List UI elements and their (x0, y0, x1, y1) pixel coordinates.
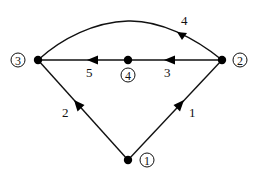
node-3-dot (34, 56, 42, 64)
svg-text:2: 2 (237, 54, 243, 68)
edge-2 (38, 60, 128, 160)
edge-3-arrowhead-icon (164, 56, 175, 65)
edge-1-label: 1 (189, 105, 196, 120)
node-2-dot (218, 56, 226, 64)
edge-5-label: 5 (86, 65, 93, 80)
graph-svg: 4 3 5 2 1 1 2 3 (0, 0, 260, 178)
node-4-label: 4 (121, 68, 135, 83)
node-3-label: 3 (11, 53, 25, 68)
edge-3-label: 3 (164, 65, 171, 80)
edge-1 (128, 60, 222, 160)
edge-4 (38, 21, 222, 60)
svg-text:1: 1 (144, 154, 150, 168)
node-2-label: 2 (233, 53, 247, 68)
node-1-dot (124, 156, 132, 164)
svg-text:3: 3 (15, 54, 21, 68)
svg-text:4: 4 (125, 69, 131, 83)
node-1-label: 1 (140, 153, 154, 168)
edge-5-arrowhead-icon (87, 56, 98, 65)
edge-2-label: 2 (62, 105, 69, 120)
node-4-dot (124, 56, 132, 64)
graph-diagram: 4 3 5 2 1 1 2 3 (0, 0, 260, 178)
edge-4-label: 4 (181, 13, 188, 28)
